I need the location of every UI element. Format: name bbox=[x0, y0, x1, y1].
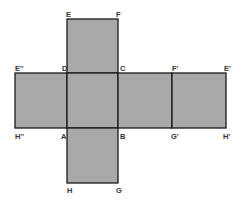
label-D: D bbox=[62, 64, 68, 73]
label-G: G bbox=[116, 186, 122, 195]
label-E: E bbox=[66, 10, 71, 19]
label-H-double-prime: H'' bbox=[15, 132, 24, 141]
label-H-prime: H' bbox=[223, 132, 230, 141]
label-E-double-prime: E'' bbox=[15, 64, 24, 73]
face-center bbox=[67, 73, 118, 128]
label-C: C bbox=[120, 64, 126, 73]
label-H: H bbox=[67, 186, 72, 195]
label-G-prime: G' bbox=[171, 132, 179, 141]
label-F: F bbox=[116, 10, 121, 19]
cube-net-svg: E F E'' D C F' E' H'' A B G' H' H G bbox=[0, 0, 242, 207]
face-right bbox=[118, 73, 172, 128]
label-F-prime: F' bbox=[172, 64, 179, 73]
label-E-prime: E' bbox=[224, 64, 231, 73]
face-left-far bbox=[15, 73, 67, 128]
face-top bbox=[67, 19, 118, 73]
label-A: A bbox=[61, 132, 67, 141]
cube-net-diagram: E F E'' D C F' E' H'' A B G' H' H G bbox=[0, 0, 242, 207]
face-bottom bbox=[67, 128, 118, 183]
face-right-far bbox=[172, 73, 226, 128]
label-B: B bbox=[120, 132, 126, 141]
